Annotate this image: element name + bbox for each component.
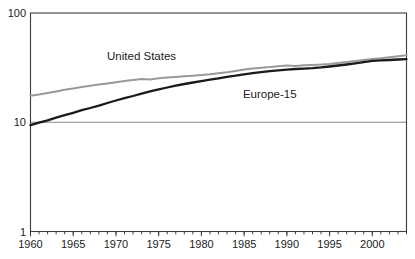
x-axis-tick-label: 1980 xyxy=(189,238,213,250)
y-axis-tick-label: 10 xyxy=(14,116,26,128)
x-axis-tick-label: 1960 xyxy=(18,238,42,250)
x-axis-tick-label: 1965 xyxy=(61,238,85,250)
x-axis-tick-label: 1995 xyxy=(317,238,341,250)
x-axis-tick-label: 2000 xyxy=(360,238,384,250)
x-axis-tick-label: 1990 xyxy=(275,238,299,250)
x-axis-tick-label: 1975 xyxy=(146,238,170,250)
x-axis-tick-label: 1970 xyxy=(104,238,128,250)
series-line-united-states xyxy=(31,55,407,95)
chart-figure: 1101001960196519701975198019851990199520… xyxy=(0,0,415,259)
series-label-europe-15: Europe-15 xyxy=(243,88,297,100)
series-label-united-states: United States xyxy=(107,50,176,62)
series-line-europe-15 xyxy=(31,59,407,125)
y-axis-tick-label: 100 xyxy=(8,7,26,19)
y-axis-tick-label: 1 xyxy=(20,226,26,238)
x-axis-tick-label: 1985 xyxy=(232,238,256,250)
line-chart: 1101001960196519701975198019851990199520… xyxy=(0,0,415,259)
